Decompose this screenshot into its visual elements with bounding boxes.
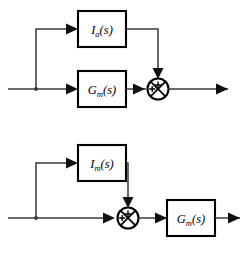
top-branch-riser-wire (36, 29, 76, 89)
top-output-arrow (216, 84, 228, 95)
bottom-arrow-into-sum-horizontal (103, 213, 115, 224)
top-arrow-into-ia (66, 24, 78, 35)
top-arrow-into-gm (66, 84, 78, 95)
bottom-output-arrow (228, 213, 240, 224)
transfer-block-im-label: Im(s) (89, 157, 114, 173)
top-arrow-into-sum-vertical (153, 68, 164, 79)
top-ia-to-sum-wire (126, 29, 158, 68)
transfer-block-gm-bottom-label: Gm(s) (177, 212, 205, 228)
bottom-arrow-into-sum-vertical (123, 197, 134, 208)
bottom-arrow-into-gm (155, 213, 167, 224)
top-diagram: Ia(s) Gm(s) (8, 11, 228, 107)
transfer-block-ia-label: Ia(s) (90, 23, 113, 39)
block-diagram-figure: Ia(s) Gm(s) (0, 0, 248, 254)
bottom-branch-riser-wire (36, 163, 76, 218)
transfer-block-gm-top-label: Gm(s) (88, 83, 116, 99)
bottom-diagram: Im(s) Gm(s) (8, 145, 240, 236)
top-arrow-into-sum-horizontal (133, 84, 145, 95)
diagram-canvas: Ia(s) Gm(s) (0, 0, 248, 254)
bottom-arrow-into-im (66, 158, 78, 169)
